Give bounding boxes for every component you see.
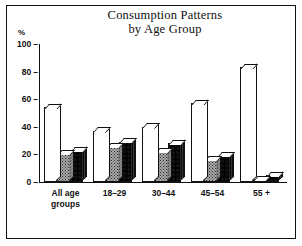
y-tick-label: 60	[22, 94, 31, 104]
y-tick-label: 100	[17, 39, 31, 49]
y-tick-label: 40	[22, 122, 31, 132]
bar-side-face	[203, 100, 208, 181]
y-axis-tick-labels: 0–20–40–60–80–100–	[0, 44, 38, 182]
y-axis-unit-label: %	[18, 28, 25, 37]
y-tick-100: 100–	[17, 39, 38, 49]
x-label-line-1: 18–29	[87, 188, 143, 199]
bar	[44, 107, 57, 182]
y-tick-mark: –	[33, 94, 38, 104]
x-label-line-1: 45–54	[185, 188, 241, 199]
y-tick-label: 0	[27, 177, 32, 187]
chart-title-line-1: Consumption Patterns	[108, 8, 223, 22]
chart-title: Consumption Patterns by Age Group	[50, 8, 280, 36]
x-label-0: All agegroups	[38, 188, 94, 210]
bar-side-face	[167, 149, 172, 181]
bar-side-face	[154, 124, 159, 181]
plot-area	[40, 44, 286, 182]
bar-side-face	[131, 139, 136, 181]
y-tick-label: 20	[22, 149, 31, 159]
x-axis-category-labels: All agegroups18–2930–4445–5455 +	[40, 188, 290, 228]
x-label-3: 45–54	[185, 188, 241, 199]
bar	[142, 127, 155, 182]
bar-group	[44, 44, 83, 182]
y-tick-40: 40–	[22, 122, 38, 132]
bar-side-face	[180, 140, 185, 181]
bar-group	[191, 44, 230, 182]
bar-side-face	[229, 153, 234, 181]
y-tick-mark: –	[33, 67, 38, 77]
x-label-4: 55 +	[234, 188, 290, 199]
bar	[253, 179, 266, 182]
y-tick-80: 80–	[22, 67, 38, 77]
bar-side-face	[82, 147, 87, 181]
bar-group	[142, 44, 181, 182]
chart-title-line-2: by Age Group	[50, 22, 280, 36]
y-tick-0: 0–	[27, 177, 38, 187]
x-label-line-2: groups	[38, 199, 94, 210]
chart-figure: Consumption Patterns by Age Group % 0–20…	[0, 0, 302, 246]
bar-side-face	[252, 64, 257, 181]
bar-side-face	[118, 143, 123, 181]
x-label-2: 30–44	[136, 188, 192, 199]
y-tick-60: 60–	[22, 94, 38, 104]
y-tick-mark: –	[33, 149, 38, 159]
bar-side-face	[56, 104, 61, 181]
bar-group	[93, 44, 132, 182]
y-tick-mark: –	[33, 122, 38, 132]
bar-group	[240, 44, 279, 182]
bar	[191, 103, 204, 182]
bar-side-face	[69, 150, 74, 181]
x-label-line-1: 55 +	[234, 188, 290, 199]
bar	[93, 131, 106, 182]
x-axis-baseline	[39, 182, 287, 183]
bar-side-face	[105, 128, 110, 181]
x-label-line-1: 30–44	[136, 188, 192, 199]
y-tick-20: 20–	[22, 149, 38, 159]
y-tick-label: 80	[22, 67, 31, 77]
x-label-1: 18–29	[87, 188, 143, 199]
y-tick-mark: –	[33, 39, 38, 49]
bar	[240, 67, 253, 182]
y-tick-mark: –	[33, 177, 38, 187]
x-label-line-1: All age	[38, 188, 94, 199]
